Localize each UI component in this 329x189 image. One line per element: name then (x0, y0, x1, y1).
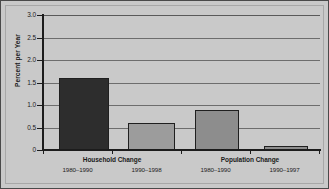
bar-household-1980-1990 (59, 78, 109, 150)
bar-population-1980-1990 (195, 110, 239, 151)
y-axis-title: Percent per Year (14, 13, 21, 109)
bar-chart-figure: 3.0 2.5 2.0 1.5 1.0 0.5 0 Percent per Ye… (0, 0, 329, 189)
y-tick-label-0-5: 0.5 (2, 125, 36, 132)
gridline-3-0 (43, 15, 320, 16)
period-label-household-1990-1998: 1990–1998 (112, 167, 181, 173)
x-axis-labels: Household Change 1980–1990 1990–1998 Pop… (1, 153, 329, 187)
y-tick-mark-1-5 (37, 83, 43, 84)
y-tick-mark-1-0 (37, 105, 43, 106)
period-label-household-1980-1990: 1980–1990 (43, 167, 112, 173)
gridline-2-5 (43, 38, 320, 39)
y-tick-mark-2-0 (37, 60, 43, 61)
period-label-population-1990-1997: 1990–1997 (250, 167, 319, 173)
y-tick-mark-2-5 (37, 38, 43, 39)
y-tick-mark-3-0 (37, 15, 43, 16)
group-label-population-change: Population Change (181, 157, 319, 164)
period-label-population-1980-1990: 1980–1990 (181, 167, 250, 173)
y-tick-mark-0-5 (37, 128, 43, 129)
bar-household-1990-1998 (128, 123, 175, 150)
gridline-2-0 (43, 60, 320, 61)
plot-area (43, 15, 320, 150)
group-label-household-change: Household Change (43, 157, 181, 164)
